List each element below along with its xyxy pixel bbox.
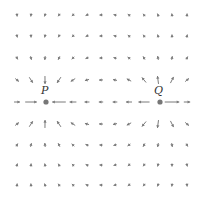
- field-arrow: [184, 100, 190, 103]
- field-arrow: [185, 35, 188, 38]
- field-arrow: [143, 35, 146, 38]
- field-arrow: [15, 79, 19, 82]
- field-arrow: [29, 77, 32, 82]
- field-arrow: [15, 14, 18, 17]
- field-arrow: [114, 35, 117, 38]
- field-arrow: [127, 123, 131, 126]
- field-arrow: [127, 79, 131, 82]
- field-arrow: [58, 56, 61, 59]
- field-arrow: [100, 13, 103, 16]
- field-arrow: [29, 56, 32, 60]
- field-arrow: [128, 14, 131, 17]
- field-arrow: [156, 120, 159, 128]
- field-arrow: [72, 13, 75, 16]
- field-arrow: [43, 56, 46, 60]
- field-arrow: [113, 100, 118, 103]
- field-arrow: [85, 123, 89, 126]
- field-arrow: [157, 143, 160, 147]
- field-arrow: [72, 184, 75, 187]
- vector-field: [0, 0, 205, 203]
- field-arrow: [128, 183, 131, 186]
- field-arrow: [170, 164, 173, 167]
- field-arrow: [85, 100, 90, 103]
- field-arrow: [57, 121, 61, 127]
- field-arrow: [72, 56, 75, 59]
- field-arrow: [170, 56, 173, 60]
- field-arrow: [143, 14, 146, 17]
- field-arrow: [185, 78, 189, 81]
- field-arrow: [58, 13, 61, 16]
- field-arrow: [185, 184, 188, 187]
- field-arrow: [143, 143, 146, 146]
- field-arrow: [128, 57, 131, 60]
- field-arrow: [128, 163, 131, 166]
- field-arrow: [57, 77, 61, 83]
- field-arrow: [14, 100, 20, 103]
- field-arrow: [128, 35, 131, 38]
- field-arrow: [114, 163, 117, 166]
- field-arrow: [30, 184, 33, 187]
- field-arrow: [86, 34, 89, 37]
- field-arrow: [113, 79, 117, 82]
- field-arrow: [15, 184, 18, 187]
- field-arrow: [86, 56, 89, 59]
- field-arrow: [15, 164, 18, 167]
- field-arrow: [43, 120, 46, 128]
- field-arrow: [72, 34, 75, 37]
- field-arrow: [99, 122, 103, 125]
- field-arrow: [157, 35, 160, 38]
- field-arrow: [114, 57, 117, 60]
- field-arrow: [29, 35, 32, 38]
- field-arrow: [170, 143, 173, 147]
- field-arrow: [113, 122, 117, 125]
- field-arrow: [85, 78, 89, 81]
- field-arrow: [185, 143, 188, 146]
- field-arrow: [143, 183, 146, 186]
- field-arrow: [142, 121, 146, 126]
- field-arrow: [157, 164, 160, 167]
- field-arrow: [58, 143, 61, 146]
- field-arrow: [126, 100, 132, 103]
- field-arrow: [43, 143, 46, 147]
- field-arrow: [99, 143, 102, 146]
- field-arrow: [71, 123, 75, 126]
- field-arrow: [72, 164, 75, 167]
- field-arrow: [86, 164, 89, 167]
- field-arrow: [99, 78, 103, 81]
- field-arrow: [157, 183, 160, 186]
- field-arrow: [157, 56, 160, 60]
- field-arrow: [44, 184, 47, 187]
- field-arrow: [170, 35, 173, 38]
- field-arrow: [30, 14, 33, 17]
- field-arrow: [156, 76, 159, 84]
- field-arrow: [15, 123, 19, 126]
- field-arrow: [113, 143, 116, 146]
- point-label-q: Q: [154, 84, 163, 97]
- field-arrow: [70, 100, 77, 103]
- field-arrow: [157, 14, 160, 17]
- field-arrow: [142, 77, 146, 82]
- field-arrow: [29, 143, 32, 147]
- field-arrow: [15, 144, 18, 147]
- field-arrow: [143, 163, 146, 166]
- field-arrow: [86, 13, 89, 16]
- field-arrow: [185, 164, 188, 167]
- field-arrow: [138, 100, 149, 103]
- field-arrow: [114, 183, 117, 186]
- field-arrow: [170, 121, 173, 127]
- field-arrow: [72, 144, 75, 147]
- field-arrow: [15, 56, 18, 59]
- field-arrow: [86, 144, 89, 147]
- field-arrow: [71, 79, 75, 82]
- field-arrow: [99, 100, 103, 103]
- field-arrow: [185, 14, 188, 17]
- field-arrow: [185, 57, 188, 60]
- field-arrow: [44, 164, 47, 167]
- field-arrow: [58, 164, 61, 167]
- point-q-marker: [157, 99, 162, 104]
- field-arrow: [114, 14, 117, 17]
- field-arrow: [170, 77, 173, 83]
- point-p-marker: [43, 99, 48, 104]
- field-arrow: [185, 122, 189, 125]
- field-arrow: [165, 100, 180, 103]
